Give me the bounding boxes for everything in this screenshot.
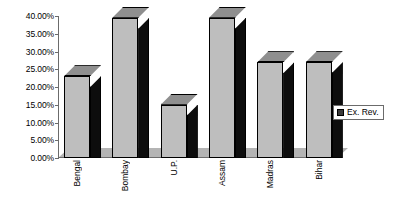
y-axis-tick-label: 40.00%: [26, 12, 54, 21]
x-axis-category-label: U.P.: [170, 160, 179, 175]
bar-front-face: [64, 76, 90, 158]
legend: Ex. Rev.: [333, 105, 384, 120]
bar-top-face: [257, 51, 294, 62]
x-axis-category-label: Bihar: [315, 160, 324, 180]
y-axis-tick-mark: [55, 123, 59, 124]
y-axis-tick-label: 20.00%: [26, 83, 54, 92]
bar-top-face: [209, 7, 246, 18]
bar-top-face: [306, 51, 343, 62]
x-axis-category-label: Bombay: [121, 160, 130, 191]
bar-front-face: [112, 18, 138, 158]
bar-column: [64, 65, 101, 158]
bar-side-face: [187, 105, 198, 158]
x-axis-category-label: Bengal: [73, 160, 82, 186]
y-axis-tick-mark: [55, 87, 59, 88]
x-axis-labels: BengalBombayU.P.AssamMadrasBihar: [58, 160, 348, 205]
x-axis-category-label: Madras: [266, 160, 275, 188]
y-axis-tick-mark: [55, 69, 59, 70]
y-axis-tick-label: 25.00%: [26, 65, 54, 74]
bar-front-face: [209, 18, 235, 158]
y-axis-tick-label: 15.00%: [26, 101, 54, 110]
bar-column: [257, 51, 294, 158]
bar-front-face: [257, 62, 283, 158]
y-axis-tick-mark: [55, 34, 59, 35]
bar-side-face: [90, 76, 101, 158]
bar-top-face: [161, 94, 198, 105]
y-axis-tick-mark: [55, 105, 59, 106]
x-axis-category-label: Assam: [218, 160, 227, 186]
y-axis-tick-mark: [55, 158, 59, 159]
y-axis-tick-label: 5.00%: [30, 136, 54, 145]
bar-column: [161, 94, 198, 158]
plot-area: [58, 16, 348, 158]
y-axis-tick-label: 10.00%: [26, 118, 54, 127]
y-axis-tick-mark: [55, 16, 59, 17]
bar-chart: 0.00%5.00%10.00%15.00%20.00%25.00%30.00%…: [0, 0, 402, 205]
bar-front-face: [306, 62, 332, 158]
y-axis-tick-mark: [55, 140, 59, 141]
bar-side-face: [138, 18, 149, 158]
bar-column: [112, 7, 149, 158]
bar-side-face: [283, 62, 294, 158]
bar-column: [209, 7, 246, 158]
bar-front-face: [161, 105, 187, 158]
y-axis-labels: 0.00%5.00%10.00%15.00%20.00%25.00%30.00%…: [6, 10, 58, 158]
legend-label: Ex. Rev.: [347, 108, 379, 117]
y-axis-tick-label: 35.00%: [26, 30, 54, 39]
bar-side-face: [235, 18, 246, 158]
bar-top-face: [112, 7, 149, 18]
bar-top-face: [64, 65, 101, 76]
series-color-swatch: [337, 109, 344, 116]
y-axis-tick-label: 30.00%: [26, 47, 54, 56]
y-axis-tick-mark: [55, 52, 59, 53]
y-axis-tick-label: 0.00%: [30, 154, 54, 163]
